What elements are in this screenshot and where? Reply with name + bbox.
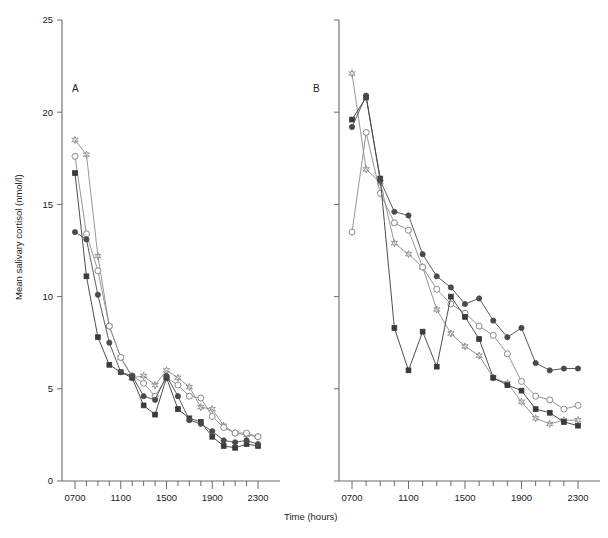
data-point-filled-square — [221, 444, 226, 449]
x-axis-title: Time (hours) — [284, 511, 338, 522]
data-point-filled-square — [561, 420, 566, 425]
data-point-filled-circle — [255, 442, 260, 447]
data-point-filled-circle — [575, 366, 580, 371]
data-point-open-circle — [504, 351, 510, 357]
series-line-star — [75, 140, 258, 437]
data-point-filled-square — [392, 326, 397, 331]
data-point-filled-square — [153, 412, 158, 417]
series-star — [349, 70, 581, 428]
data-point-filled-circle — [448, 285, 453, 290]
data-point-filled-circle — [198, 421, 203, 426]
data-point-filled-square — [463, 314, 468, 319]
data-point-filled-square — [434, 364, 439, 369]
data-point-filled-circle — [164, 373, 169, 378]
data-point-filled-square — [210, 434, 215, 439]
series-filled-square — [73, 171, 261, 451]
data-point-filled-circle — [187, 418, 192, 423]
data-point-filled-circle — [392, 209, 397, 214]
data-point-filled-square — [491, 375, 496, 380]
data-point-filled-circle — [349, 124, 354, 129]
data-point-open-circle — [244, 430, 250, 436]
data-point-filled-circle — [244, 438, 249, 443]
y-tick-label: 15 — [42, 199, 53, 210]
data-point-open-circle — [406, 227, 412, 233]
panel-a-label: A — [72, 83, 79, 94]
data-point-filled-square — [420, 329, 425, 334]
data-point-open-circle — [434, 286, 440, 292]
series-line-filled-square — [75, 173, 258, 448]
data-point-open-circle — [255, 434, 261, 440]
data-point-star — [349, 70, 355, 77]
data-point-filled-square — [73, 171, 78, 176]
y-tick-label: 20 — [42, 107, 53, 118]
data-point-filled-circle — [141, 394, 146, 399]
data-point-filled-square — [84, 274, 89, 279]
data-point-filled-circle — [561, 366, 566, 371]
data-point-filled-square — [505, 383, 510, 388]
x-tick-label: 1100 — [111, 492, 131, 503]
data-point-open-circle — [561, 406, 567, 412]
data-point-filled-square — [477, 337, 482, 342]
data-point-filled-circle — [364, 93, 369, 98]
data-point-filled-circle — [221, 438, 226, 443]
x-tick-label: 1900 — [511, 492, 532, 503]
data-point-filled-circle — [462, 301, 467, 306]
series-open-circle — [349, 129, 581, 412]
data-point-filled-circle — [505, 335, 510, 340]
data-point-open-circle — [519, 378, 525, 384]
data-point-filled-circle — [210, 429, 215, 434]
cortisol-line-chart: 051015202507001100150019002300 070011001… — [0, 0, 608, 538]
data-point-filled-square — [576, 423, 581, 428]
data-point-open-circle — [547, 397, 553, 403]
data-point-open-circle — [221, 425, 227, 431]
panel-b-label: B — [313, 83, 320, 94]
data-point-filled-circle — [533, 360, 538, 365]
series-line-filled-circle — [75, 232, 258, 444]
data-point-filled-circle — [95, 292, 100, 297]
data-point-open-circle — [198, 395, 204, 401]
y-tick-label: 10 — [42, 291, 53, 302]
data-point-filled-circle — [547, 368, 552, 373]
data-point-open-circle — [575, 402, 581, 408]
y-tick-label: 25 — [42, 14, 53, 25]
x-tick-label: 2300 — [567, 492, 588, 503]
series-line-filled-circle — [352, 96, 578, 371]
data-point-open-circle — [141, 380, 147, 386]
data-point-filled-circle — [378, 178, 383, 183]
data-point-open-circle — [476, 323, 482, 329]
figure-root: 051015202507001100150019002300 070011001… — [0, 0, 608, 538]
data-point-open-circle — [186, 393, 192, 399]
data-point-filled-circle — [175, 394, 180, 399]
data-point-filled-circle — [84, 237, 89, 242]
data-point-open-circle — [420, 264, 426, 270]
data-point-open-circle — [106, 323, 112, 329]
data-point-filled-circle — [477, 296, 482, 301]
data-point-filled-circle — [406, 213, 411, 218]
panel-b-axes: 07001100150019002300 — [334, 20, 600, 503]
data-point-filled-circle — [130, 373, 135, 378]
data-point-filled-square — [107, 362, 112, 367]
x-tick-label: 1500 — [156, 492, 177, 503]
series-line-filled-square — [352, 97, 578, 425]
data-point-filled-square — [95, 335, 100, 340]
x-tick-label: 1900 — [202, 492, 223, 503]
x-tick-label: 1500 — [454, 492, 475, 503]
data-point-filled-square — [448, 294, 453, 299]
data-point-filled-square — [141, 403, 146, 408]
data-point-open-circle — [391, 220, 397, 226]
series-open-circle — [72, 153, 261, 439]
data-point-open-circle — [209, 413, 215, 419]
data-point-filled-circle — [152, 397, 157, 402]
data-point-open-circle — [377, 190, 383, 196]
data-point-filled-circle — [491, 318, 496, 323]
x-tick-label: 0700 — [64, 492, 85, 503]
data-point-open-circle — [533, 393, 539, 399]
data-point-open-circle — [349, 229, 355, 235]
data-point-filled-circle — [434, 274, 439, 279]
panel-b: 07001100150019002300 — [334, 20, 600, 503]
data-point-open-circle — [95, 268, 101, 274]
data-point-filled-circle — [72, 229, 77, 234]
data-point-open-circle — [490, 332, 496, 338]
data-point-open-circle — [363, 129, 369, 135]
y-tick-label: 0 — [48, 475, 53, 486]
